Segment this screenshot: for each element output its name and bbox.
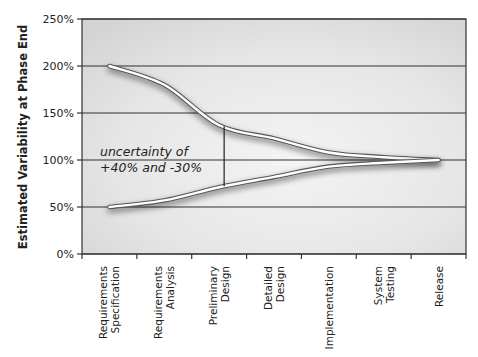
svg-text:Design: Design bbox=[219, 266, 231, 302]
y-tick-label: 250% bbox=[43, 13, 74, 26]
x-tick-label: RequirementsAnalysis bbox=[152, 266, 176, 339]
y-tick-label: 100% bbox=[43, 154, 74, 167]
y-tick-label: 150% bbox=[43, 107, 74, 120]
svg-text:Design: Design bbox=[274, 266, 286, 302]
svg-text:System: System bbox=[372, 266, 384, 305]
x-tick-label: DetailedDesign bbox=[262, 266, 286, 310]
x-tick-label: SystemTesting bbox=[372, 266, 396, 305]
y-axis-label: Estimated Variability at Phase End bbox=[16, 25, 30, 249]
x-tick-label: Implementation bbox=[323, 266, 335, 349]
y-tick-label: 50% bbox=[50, 201, 74, 214]
svg-text:Analysis: Analysis bbox=[164, 266, 176, 309]
x-tick-label: RequirementsSpecification bbox=[97, 266, 121, 339]
svg-text:Requirements: Requirements bbox=[152, 266, 164, 339]
y-tick-label: 200% bbox=[43, 60, 74, 73]
y-axis-ticks: 0%50%100%150%200%250% bbox=[43, 13, 82, 261]
y-tick-label: 0% bbox=[57, 248, 74, 261]
svg-text:Specification: Specification bbox=[109, 266, 121, 333]
cone-of-uncertainty-chart: 0%50%100%150%200%250% RequirementsSpecif… bbox=[0, 0, 478, 357]
svg-text:Testing: Testing bbox=[384, 266, 396, 304]
svg-text:Requirements: Requirements bbox=[97, 266, 109, 339]
svg-text:Preliminary: Preliminary bbox=[207, 266, 219, 325]
svg-text:Implementation: Implementation bbox=[323, 266, 335, 349]
x-axis-ticks: RequirementsSpecificationRequirementsAna… bbox=[82, 254, 466, 349]
svg-text:Detailed: Detailed bbox=[262, 266, 274, 310]
x-tick-label: Release bbox=[433, 266, 445, 307]
svg-text:Release: Release bbox=[433, 266, 445, 307]
x-tick-label: PreliminaryDesign bbox=[207, 266, 231, 325]
annotation-text: uncertainty of +40% and -30% bbox=[100, 144, 202, 175]
